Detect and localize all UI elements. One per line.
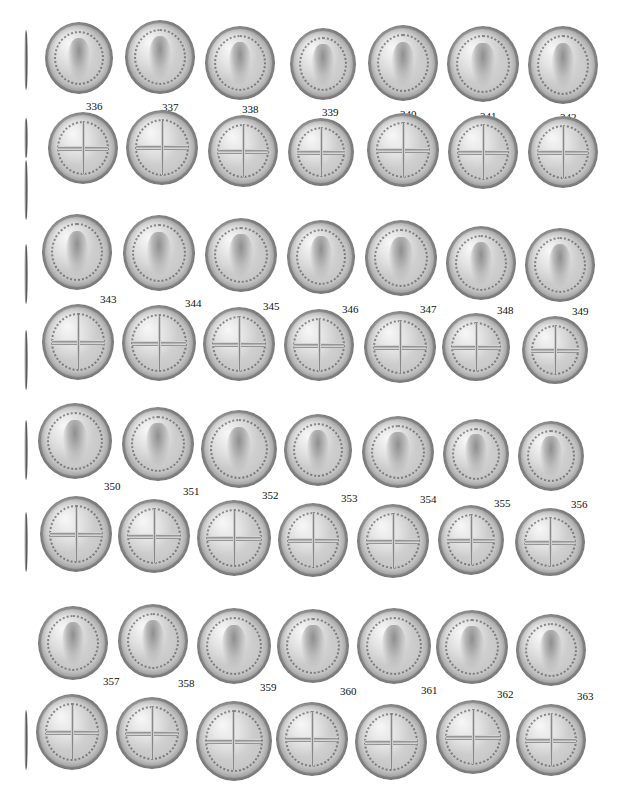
coin-reverse [203, 307, 275, 381]
long-cross-icon [82, 122, 85, 174]
long-cross-icon [311, 712, 314, 765]
long-cross-icon [550, 714, 553, 766]
coin-number-label: 356 [571, 498, 588, 510]
long-cross-icon [71, 705, 74, 760]
coin-obverse [516, 614, 586, 686]
coin-obverse [357, 608, 431, 684]
coin-obverse [290, 28, 356, 100]
coin-reverse [364, 311, 436, 383]
long-cross-icon [158, 316, 161, 371]
coin-obverse [528, 26, 598, 104]
long-cross-icon [238, 317, 241, 370]
coin-reverse [196, 701, 272, 781]
coin-reverse [42, 304, 114, 380]
page-edge-coin-fragment [24, 160, 28, 220]
coin-reverse [48, 112, 118, 184]
coin-obverse [368, 25, 438, 101]
coin-obverse [205, 218, 277, 292]
long-cross-icon [161, 121, 164, 175]
page-edge-coin-fragment [24, 118, 28, 158]
coin-number-label: 343 [100, 293, 117, 305]
coin-number-label: 363 [577, 690, 594, 702]
coin-obverse [38, 403, 112, 479]
coin-obverse [122, 407, 194, 481]
coin-obverse [443, 419, 509, 489]
coin-obverse [38, 606, 108, 680]
coin-number-label: 350 [104, 480, 121, 492]
long-cross-icon [472, 710, 475, 763]
coin-reverse [116, 697, 188, 769]
coin-number-label: 354 [420, 493, 437, 505]
coin-reverse [126, 110, 198, 185]
coin-obverse [45, 22, 113, 94]
coin-number-label: 345 [263, 300, 280, 312]
coin-reverse [36, 694, 108, 770]
coin-obverse [446, 226, 516, 300]
coin-obverse [365, 220, 437, 296]
coin-number-label: 362 [497, 688, 514, 700]
coin-reverse [208, 115, 278, 187]
coin-obverse [125, 20, 195, 94]
long-cross-icon [320, 128, 323, 177]
coin-number-label: 339 [322, 106, 339, 118]
coin-reverse [284, 309, 354, 381]
coin-number-label: 336 [86, 100, 103, 112]
long-cross-icon [151, 707, 154, 759]
page-edge-coin-fragment [24, 30, 28, 90]
coin-number-label: 353 [341, 492, 358, 504]
long-cross-icon [399, 321, 402, 373]
coin-obverse [123, 215, 195, 291]
coin-obverse [518, 421, 584, 491]
coin-number-label: 338 [242, 103, 259, 115]
coin-reverse [516, 704, 586, 776]
long-cross-icon [153, 509, 156, 562]
long-cross-icon [562, 126, 565, 178]
coin-plate: 3363373383393403413423433443453463473483… [0, 0, 628, 793]
coin-number-label: 357 [103, 675, 120, 687]
coin-number-label: 346 [342, 303, 359, 315]
long-cross-icon [470, 515, 473, 565]
page-edge-coin-fragment [24, 330, 28, 390]
coin-reverse [357, 504, 429, 578]
long-cross-icon [77, 315, 80, 370]
long-cross-icon [390, 715, 393, 770]
page-edge-coin-fragment [24, 420, 28, 480]
long-cross-icon [233, 511, 236, 566]
coin-reverse [355, 704, 427, 780]
coin-reverse [40, 496, 112, 572]
page-edge-coin-fragment [24, 710, 28, 770]
long-cross-icon [475, 323, 478, 372]
coin-reverse [118, 499, 190, 573]
coin-reverse [367, 113, 439, 187]
coin-number-label: 355 [494, 497, 511, 509]
coin-obverse [447, 26, 519, 102]
coin-number-label: 351 [183, 485, 200, 497]
coin-reverse [448, 115, 518, 189]
coin-obverse [287, 220, 355, 294]
coin-reverse [288, 118, 354, 186]
coin-obverse [362, 416, 434, 488]
coin-obverse [436, 610, 508, 684]
long-cross-icon [242, 125, 245, 177]
coin-obverse [277, 609, 349, 683]
long-cross-icon [318, 319, 321, 371]
coin-number-label: 358 [178, 677, 195, 689]
coin-number-label: 360 [340, 685, 357, 697]
long-cross-icon [312, 513, 315, 566]
coin-number-label: 349 [572, 305, 589, 317]
long-cross-icon [232, 712, 235, 770]
coin-reverse [522, 316, 588, 384]
coin-obverse [118, 604, 188, 678]
coin-reverse [278, 503, 348, 577]
coin-reverse [528, 116, 598, 188]
long-cross-icon [554, 326, 557, 375]
coin-reverse [197, 500, 271, 576]
coin-reverse [436, 700, 510, 774]
page-edge-coin-fragment [24, 512, 28, 572]
coin-number-label: 352 [262, 489, 279, 501]
long-cross-icon [75, 507, 78, 562]
coin-obverse [284, 414, 352, 486]
page-edge-coin-fragment [24, 244, 28, 304]
long-cross-icon [482, 125, 485, 178]
coin-number-label: 359 [260, 681, 277, 693]
